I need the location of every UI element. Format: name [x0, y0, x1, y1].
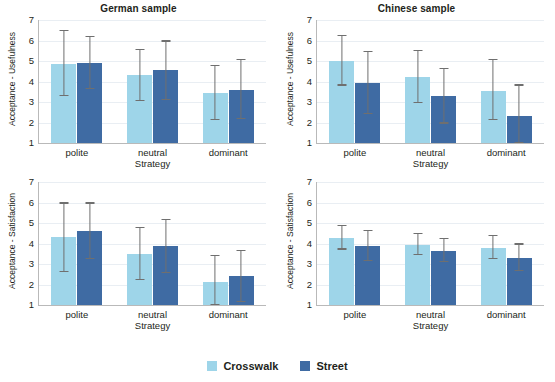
bar-wrapper [203, 182, 228, 305]
panel-chinese-usefulness: Chinese sample Acceptance - Usefulness 1… [278, 0, 555, 172]
error-bar-cap-upper [211, 255, 220, 256]
bar-wrapper [329, 182, 354, 305]
error-bar-cap-upper [161, 40, 170, 41]
error-bar-cap-lower [237, 301, 246, 302]
error-bar [63, 31, 64, 96]
y-axis-tick-label: 6 [307, 198, 312, 208]
error-bar-cap-lower [135, 279, 144, 280]
error-bar-cap-lower [161, 99, 170, 100]
y-axis-tick-label: 4 [29, 239, 34, 249]
error-bar-cap-upper [439, 238, 448, 239]
bar-group: polite [39, 182, 115, 305]
x-axis-tick-label: neutral [393, 309, 469, 320]
bar-wrapper [77, 20, 102, 143]
error-bar [63, 204, 64, 273]
bar-group: neutralStrategy [393, 20, 469, 143]
bar-group: neutralStrategy [393, 182, 469, 305]
y-axis-tick-label: 3 [307, 97, 312, 107]
legend-item-crosswalk[interactable]: Crosswalk [207, 360, 278, 372]
y-axis-tick-label: 3 [29, 97, 34, 107]
bar-wrapper [481, 182, 506, 305]
error-bar [367, 231, 368, 261]
error-bar-cap-lower [237, 118, 246, 119]
x-axis-label: Strategy [393, 158, 469, 169]
error-bar [139, 228, 140, 280]
legend-item-street[interactable]: Street [300, 360, 347, 372]
error-bar [215, 66, 216, 120]
bar-wrapper [127, 182, 152, 305]
y-axis-tick-label: 5 [307, 218, 312, 228]
error-bar [417, 51, 418, 103]
error-bar-cap-upper [59, 202, 68, 203]
y-axis-tick-label: 6 [29, 36, 34, 46]
bar-wrapper [481, 20, 506, 143]
bar-group: polite [39, 20, 115, 143]
y-axis-tick-label: 3 [29, 259, 34, 269]
legend-swatch-crosswalk [207, 361, 217, 371]
bar-wrapper [51, 20, 76, 143]
bar-groups: politeneutralStrategydominant [317, 20, 544, 143]
error-bar [443, 239, 444, 262]
y-axis-tick-label: 2 [29, 280, 34, 290]
error-bar-cap-lower [85, 88, 94, 89]
error-bar [519, 245, 520, 272]
error-bar [519, 86, 520, 143]
bar-wrapper [329, 20, 354, 143]
y-axis-tick-label: 7 [29, 15, 34, 25]
error-bar-cap-upper [489, 59, 498, 60]
legend-label: Crosswalk [223, 360, 278, 372]
error-bar-cap-upper [413, 50, 422, 51]
bar-wrapper [507, 182, 532, 305]
error-bar-cap-upper [489, 235, 498, 236]
error-bar [493, 60, 494, 120]
x-axis-tick-label: polite [39, 147, 115, 158]
error-bar-cap-upper [337, 35, 346, 36]
error-bar-cap-upper [237, 250, 246, 251]
error-bar-cap-lower [515, 142, 524, 143]
y-axis-label: Acceptance - Usefulness [6, 18, 18, 140]
x-axis-tick-label: polite [39, 309, 115, 320]
bar-group: polite [317, 182, 393, 305]
error-bar [367, 52, 368, 115]
error-bar-cap-upper [211, 65, 220, 66]
panel-german-satisfaction: German sample Acceptance - Satisfaction … [0, 172, 277, 344]
error-bar-cap-lower [489, 119, 498, 120]
bar-group: dominant [468, 182, 544, 305]
error-bar-cap-lower [59, 95, 68, 96]
error-bar [241, 251, 242, 302]
error-bar-cap-lower [515, 270, 524, 271]
plot-area: 1234567politeneutralStrategydominant [38, 182, 266, 306]
error-bar-cap-lower [413, 254, 422, 255]
error-bar-cap-lower [439, 122, 448, 123]
x-axis-tick-label: dominant [190, 147, 266, 158]
error-bar-cap-upper [135, 227, 144, 228]
y-axis-tick-label: 7 [307, 177, 312, 187]
bar-wrapper [431, 182, 456, 305]
error-bar-cap-lower [337, 84, 346, 85]
bar-group: polite [317, 20, 393, 143]
y-axis-tick-label: 4 [307, 239, 312, 249]
x-axis-tick-label: neutral [115, 309, 191, 320]
bar-wrapper [229, 182, 254, 305]
x-axis-tick-label: dominant [468, 309, 544, 320]
x-axis-tick-label: polite [317, 309, 393, 320]
bar-wrapper [507, 20, 532, 143]
y-axis-tick-label: 1 [307, 138, 312, 148]
y-axis-tick-label: 2 [29, 118, 34, 128]
y-axis-tick-label: 4 [307, 77, 312, 87]
y-axis-tick-label: 4 [29, 77, 34, 87]
bar-wrapper [431, 20, 456, 143]
bar-group: dominant [468, 20, 544, 143]
error-bar [241, 60, 242, 119]
error-bar [89, 204, 90, 259]
y-axis-label: Acceptance - Satisfaction [6, 180, 18, 302]
bar-wrapper [355, 20, 380, 143]
x-axis-tick-label: dominant [190, 309, 266, 320]
error-bar [341, 36, 342, 85]
error-bar [89, 37, 90, 88]
error-bar-cap-upper [85, 36, 94, 37]
panel-german-usefulness: German sample Acceptance - Usefulness 12… [0, 0, 277, 172]
error-bar-cap-lower [59, 271, 68, 272]
error-bar-cap-lower [211, 304, 220, 305]
bar-group: neutralStrategy [115, 182, 191, 305]
